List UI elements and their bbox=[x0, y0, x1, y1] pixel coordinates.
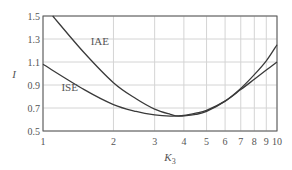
y-tick-label: 0.9 bbox=[28, 80, 41, 91]
curve-iae bbox=[53, 16, 277, 116]
y-tick-label: 0.7 bbox=[28, 103, 41, 114]
y-tick-labels: 0.50.70.91.11.31.5 bbox=[28, 11, 41, 137]
y-tick-label: 0.5 bbox=[28, 126, 41, 137]
y-tick-label: 1.1 bbox=[28, 57, 41, 68]
x-tick-label: 10 bbox=[272, 136, 282, 147]
x-tick-label: 6 bbox=[223, 136, 228, 147]
series-label-ise: ISE bbox=[61, 81, 78, 93]
x-tick-label: 1 bbox=[41, 136, 46, 147]
curves bbox=[43, 16, 277, 116]
series-labels: IAEISE bbox=[61, 35, 109, 93]
y-tick-label: 1.3 bbox=[28, 34, 41, 45]
x-tick-label: 7 bbox=[238, 136, 243, 147]
x-tick-label: 2 bbox=[111, 136, 116, 147]
x-axis-label: K3 bbox=[163, 151, 175, 166]
x-tick-label: 5 bbox=[204, 136, 209, 147]
grid-lines bbox=[43, 16, 277, 131]
series-label-iae: IAE bbox=[91, 35, 110, 47]
plot-frame bbox=[43, 16, 277, 131]
y-axis-label: I bbox=[11, 68, 17, 80]
x-tick-label: 4 bbox=[181, 136, 186, 147]
chart: 0.50.70.91.11.31.5 12345678910 I K3 IAEI… bbox=[0, 0, 292, 170]
x-tick-label: 9 bbox=[264, 136, 269, 147]
y-tick-label: 1.5 bbox=[28, 11, 41, 22]
x-tick-label: 8 bbox=[252, 136, 257, 147]
x-tick-labels: 12345678910 bbox=[41, 136, 283, 147]
x-tick-label: 3 bbox=[152, 136, 157, 147]
